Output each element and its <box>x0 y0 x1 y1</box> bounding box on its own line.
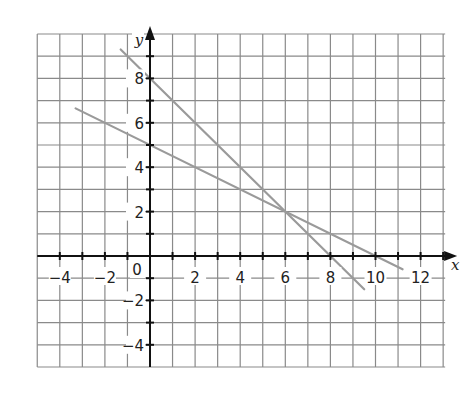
y-tick-label: 8 <box>134 70 144 88</box>
y-tick-label: −2 <box>122 292 144 310</box>
x-tick-label: 4 <box>235 269 245 287</box>
y-tick-label: 2 <box>134 204 144 222</box>
x-tick-label: 2 <box>190 269 200 287</box>
y-tick-label: −4 <box>122 337 144 355</box>
y-tick-label: 4 <box>134 159 144 177</box>
grid <box>37 34 445 367</box>
series-line <box>121 50 365 290</box>
x-tick-label: 10 <box>366 269 385 287</box>
x-tick-label: 6 <box>281 269 291 287</box>
x-tick-label: −2 <box>94 269 116 287</box>
x-tick-label: −4 <box>49 269 71 287</box>
origin-label: 0 <box>132 261 142 279</box>
coordinate-plane: −4−224681012−4−224680yx <box>0 0 464 394</box>
axes <box>37 26 457 367</box>
y-tick-label: 6 <box>134 115 144 133</box>
x-tick-label: 12 <box>411 269 430 287</box>
y-axis-arrow-icon <box>145 26 155 40</box>
x-tick-label: 8 <box>326 269 336 287</box>
x-axis-label: x <box>451 256 460 274</box>
y-axis-label: y <box>134 31 144 49</box>
